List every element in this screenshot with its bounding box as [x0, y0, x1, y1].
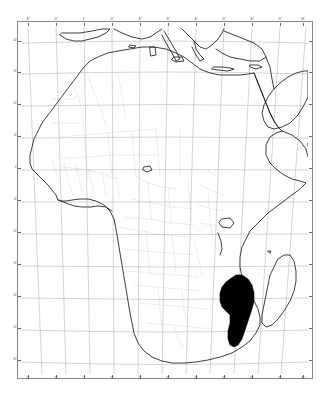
lon-tick-mark — [84, 23, 85, 26]
lon-tick-label: 20° — [26, 378, 30, 381]
country-border — [62, 155, 162, 159]
country-border — [76, 165, 82, 193]
country-border — [122, 249, 194, 255]
country-border — [52, 95, 78, 99]
lat-tick-mark — [309, 104, 312, 105]
country-border — [156, 129, 160, 177]
country-border — [88, 75, 106, 127]
country-border — [118, 73, 126, 119]
lon-tick-label: 50° — [222, 378, 226, 381]
country-border — [182, 291, 188, 327]
meridian-line — [162, 27, 168, 374]
parallel-line — [22, 362, 308, 365]
country-border — [208, 193, 212, 237]
lat-tick-mark — [18, 200, 21, 201]
coastline-lake-tanganyika — [218, 233, 222, 255]
coastline-arabia — [262, 71, 308, 129]
lat-tick-mark — [18, 360, 21, 361]
coastline-lake-chad — [143, 166, 152, 172]
highlight-layer — [220, 275, 254, 347]
lat-tick-mark — [309, 200, 312, 201]
country-border — [146, 323, 212, 329]
country-border — [118, 227, 188, 237]
country-border — [52, 161, 62, 189]
lat-tick-mark — [18, 41, 21, 42]
lon-tick-label: 10° — [54, 378, 58, 381]
lat-tick-mark — [309, 168, 312, 169]
coastline-group — [30, 29, 308, 363]
lat-tick-mark — [18, 328, 21, 329]
lon-tick-mark — [28, 23, 29, 26]
graticule-group — [22, 27, 308, 374]
lon-tick-mark — [56, 23, 57, 26]
country-border — [138, 303, 208, 309]
lon-tick-label: 0° — [83, 19, 85, 22]
meridian-line — [210, 27, 224, 374]
country-border — [168, 187, 172, 225]
lat-tick-mark — [309, 72, 312, 73]
lon-tick-label: 20° — [138, 19, 142, 22]
coastline-greece — [192, 41, 204, 61]
lon-tick-mark — [303, 23, 304, 26]
country-mozambique-highlight — [220, 275, 254, 347]
lat-tick-label: 30° — [13, 263, 17, 266]
lon-tick-label: 80° — [301, 19, 305, 22]
lat-tick-mark — [18, 296, 21, 297]
coastline-crete — [212, 67, 234, 71]
country-border — [126, 217, 194, 225]
country-border — [200, 185, 224, 195]
lat-tick-label: 50° — [13, 327, 17, 330]
lon-tick-label: 50° — [222, 19, 226, 22]
lon-tick-mark — [168, 23, 169, 26]
lon-tick-label: 60° — [250, 19, 254, 22]
lon-tick-label: 0° — [83, 378, 85, 381]
lat-tick-label: 30° — [13, 71, 17, 74]
coastline-balearics — [129, 45, 136, 48]
lat-tick-mark — [309, 136, 312, 137]
parallel-line — [22, 170, 308, 171]
parallel-line — [22, 137, 308, 138]
lat-tick-label: 20° — [13, 231, 17, 234]
lon-tick-label: 40° — [194, 378, 198, 381]
country-border — [132, 199, 192, 209]
lon-tick-label: 30° — [166, 19, 170, 22]
lat-tick-label: 0° — [15, 167, 17, 170]
lat-tick-label: 10° — [13, 199, 17, 202]
country-border — [132, 131, 136, 177]
lon-tick-label: 10° — [110, 378, 114, 381]
country-border — [108, 133, 112, 175]
parallel-line — [22, 72, 308, 74]
meridian-line — [112, 27, 114, 374]
country-border — [174, 327, 184, 347]
country-border — [62, 167, 118, 179]
lon-tick-mark — [252, 23, 253, 26]
lon-tick-label: 10° — [110, 19, 114, 22]
meridian-line — [258, 27, 280, 374]
lat-tick-mark — [18, 168, 21, 169]
coastline-horn-of-africa — [282, 131, 308, 157]
lat-tick-mark — [309, 360, 312, 361]
lat-tick-label: 10° — [13, 135, 17, 138]
lat-tick-mark — [18, 264, 21, 265]
country-border — [194, 239, 202, 275]
coastline-iberia — [60, 29, 110, 41]
lon-tick-label: 10° — [54, 19, 58, 22]
meridian-line — [84, 27, 90, 374]
coastline-cyprus — [250, 65, 262, 69]
lon-tick-label: 30° — [166, 378, 170, 381]
country-border — [198, 205, 226, 211]
country-border — [136, 177, 176, 189]
lat-tick-label: 40° — [13, 40, 17, 43]
lon-tick-label: 20° — [26, 19, 30, 22]
lat-tick-label: 40° — [13, 295, 17, 298]
coastline-comoros — [268, 251, 271, 253]
lon-tick-mark — [112, 23, 113, 26]
country-border — [134, 285, 200, 291]
lon-tick-label: 80° — [301, 378, 305, 381]
lat-tick-mark — [309, 41, 312, 42]
lon-tick-mark — [280, 23, 281, 26]
parallel-line — [22, 234, 308, 235]
coastline-red-sea-west — [254, 73, 282, 131]
meridian-line — [28, 27, 42, 374]
map-figure: 20°20°10°10°0°0°10°10°20°20°30°30°40°40°… — [0, 0, 331, 401]
